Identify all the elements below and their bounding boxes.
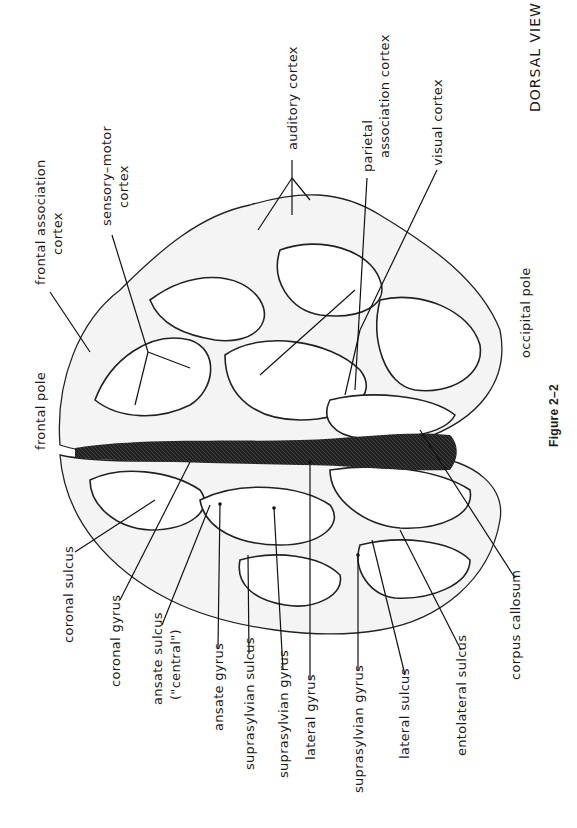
label-entolateral-sulcus: entolateral sulcus — [454, 635, 469, 756]
label-frontal-pole: frontal pole — [33, 372, 48, 450]
brain-illustration — [59, 195, 502, 634]
label-ansate-gyrus: ansate gyrus — [211, 643, 226, 731]
label-frontal-association-cortex-line2: cortex — [50, 212, 65, 255]
label-ansate-sulcus-line1: ansate sulcus — [150, 612, 165, 705]
label-auditory-cortex: auditory cortex — [285, 46, 300, 150]
label-parietal-line2: association cortex — [377, 34, 392, 158]
label-coronal-gyrus: coronal gyrus — [108, 595, 123, 687]
figure-caption: Figure 2–2 — [547, 384, 561, 447]
label-visual-cortex: visual cortex — [430, 79, 445, 166]
label-sensory-motor-cortex-line2: cortex — [116, 165, 131, 208]
view-label: DORSAL VIEW — [527, 2, 543, 112]
brain-dorsal-view-figure: frontal pole frontal association cortex … — [0, 0, 577, 828]
label-coronal-sulcus: coronal sulcus — [61, 546, 76, 643]
label-suprasylvian-gyrus-2: suprasylvian gyrus — [351, 665, 366, 793]
label-suprasylvian-gyrus-1: suprasylvian gyrus — [276, 650, 291, 778]
label-parietal-line1: parietal — [360, 120, 375, 172]
label-frontal-association-cortex-line1: frontal association — [33, 160, 48, 285]
label-corpus-callosum: corpus callosum — [508, 570, 523, 680]
label-suprasylvian-sulcus: suprasylvian sulcus — [242, 637, 257, 770]
label-lateral-sulcus: lateral sulcus — [397, 668, 412, 759]
label-lateral-gyrus: lateral gyrus — [303, 674, 318, 760]
label-occipital-pole: occipital pole — [518, 267, 533, 358]
label-ansate-sulcus-line2: ("central") — [168, 629, 183, 700]
label-sensory-motor-cortex-line1: sensory–motor — [99, 125, 114, 226]
